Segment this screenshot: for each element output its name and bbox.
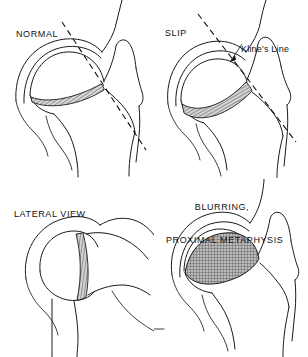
trochanter-lateral-border: [136, 68, 143, 106]
ischial-outline: [202, 295, 228, 351]
greater-trochanter-outline: [104, 40, 136, 81]
femoral-shaft-lateral: [284, 105, 288, 166]
panel-lateral: [0, 179, 154, 357]
medial-femoral-cortex: [212, 293, 235, 349]
physis-growth-plate-lateral: [76, 233, 88, 300]
femoral-head-outline: [40, 231, 98, 271]
physis-growth-plate: [31, 84, 104, 106]
femoral-neck-superior: [86, 233, 148, 259]
physis-growth-plate-widened: [182, 82, 252, 118]
trochanter-lateral-border: [281, 66, 291, 105]
trochanter-lateral-border: [291, 241, 299, 280]
soft-tissue-superior: [100, 218, 154, 235]
label-blurring-metaphysis: BLURRING, PROXIMAL METAPHYSIS: [166, 180, 278, 268]
femoral-shaft-medial: [277, 136, 283, 178]
distal-contour: [112, 291, 154, 331]
kline-line-slip: [198, 14, 296, 142]
label-lateral-view: LATERAL VIEW: [14, 209, 86, 220]
femoral-neck-inferior: [260, 263, 289, 307]
label-klines-line: Kline's Line: [241, 44, 289, 55]
label-slip: SLIP: [165, 28, 187, 39]
scfe-figure: NORMAL SLIP Kline's Line LATERAL VIEW BL…: [0, 0, 308, 357]
label-normal: NORMAL: [16, 29, 58, 40]
medial-cortex-lower: [77, 162, 78, 177]
pelvic-inferior-outline: [26, 279, 58, 335]
ischial-outline: [46, 116, 72, 170]
iliac-crest-outline: [102, 0, 122, 52]
femoral-shaft-medial: [129, 132, 135, 176]
panel-slip: [154, 0, 308, 178]
femoral-shaft-medial: [283, 307, 289, 357]
panel-normal: [0, 0, 154, 178]
pelvic-inferior-outline: [16, 101, 48, 156]
femoral-neck-inferior: [252, 92, 283, 136]
acetabulum-outline: [25, 217, 100, 279]
femoral-shaft-lateral: [292, 280, 296, 341]
femoral-shaft-lateral: [136, 106, 140, 162]
femoral-shaft-medial: [74, 301, 78, 357]
kline-line-normal: [62, 22, 146, 150]
ischial-outline: [196, 124, 221, 176]
kline-leader-arrowhead: [230, 55, 236, 62]
label-blurring-line2: PROXIMAL METAPHYSIS: [166, 235, 278, 246]
medial-femoral-cortex: [204, 123, 227, 170]
label-blurring-line1: BLURRING,: [166, 202, 278, 213]
femoral-neck-inferior: [88, 285, 150, 295]
